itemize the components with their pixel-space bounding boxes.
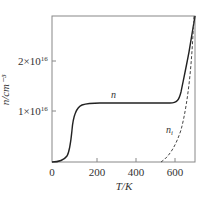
- y-axis-label: n/cm⁻³: [0, 74, 11, 105]
- curve-label-ni: ni: [166, 124, 173, 137]
- x-tick-label-200: 200: [89, 166, 106, 178]
- x-tick-label-600: 600: [167, 166, 184, 178]
- y-tick-label-1e16: 1×1016: [18, 105, 48, 117]
- x-tick-label-400: 400: [128, 166, 145, 178]
- curve-n: [52, 16, 195, 162]
- chart: 2×1016 1×1016 0 200 400 600 T/K n/cm⁻³ n…: [0, 0, 208, 200]
- y-tick-label-2e16: 2×1016: [18, 55, 48, 67]
- plot-frame: [52, 16, 195, 162]
- curve-ni: [161, 16, 194, 162]
- x-tick-label-0: 0: [49, 166, 55, 178]
- curve-label-n: n: [111, 89, 116, 100]
- x-axis-label: T/K: [116, 180, 133, 192]
